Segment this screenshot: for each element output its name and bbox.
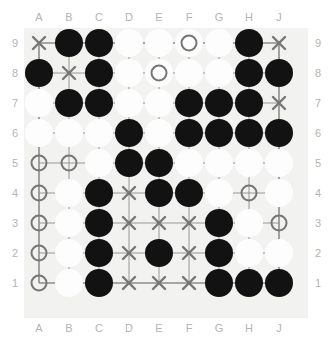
black-stone-f7[interactable] [175, 89, 203, 117]
white-stone-j2[interactable] [265, 239, 293, 267]
intersection-j3[interactable] [264, 208, 294, 238]
black-stone-c7[interactable] [85, 89, 113, 117]
intersection-c1[interactable] [84, 268, 114, 298]
intersection-g5[interactable] [204, 148, 234, 178]
intersection-e7[interactable] [144, 88, 174, 118]
black-stone-h9[interactable] [235, 29, 263, 57]
intersection-f1[interactable] [174, 268, 204, 298]
intersection-g3[interactable] [204, 208, 234, 238]
intersection-f9[interactable] [174, 28, 204, 58]
intersection-a6[interactable] [24, 118, 54, 148]
black-stone-e4[interactable] [145, 179, 173, 207]
intersection-d5[interactable] [114, 148, 144, 178]
intersection-e9[interactable] [144, 28, 174, 58]
black-stone-e2[interactable] [145, 239, 173, 267]
black-stone-c4[interactable] [85, 179, 113, 207]
intersection-a4[interactable] [24, 178, 54, 208]
white-stone-d8[interactable] [115, 59, 143, 87]
white-stone-g5[interactable] [205, 149, 233, 177]
intersection-d6[interactable] [114, 118, 144, 148]
black-stone-b9[interactable] [55, 29, 83, 57]
intersection-h3[interactable] [234, 208, 264, 238]
white-stone-h2[interactable] [235, 239, 263, 267]
intersection-g9[interactable] [204, 28, 234, 58]
black-stone-h8[interactable] [235, 59, 263, 87]
intersection-h4[interactable] [234, 178, 264, 208]
white-stone-a7[interactable] [25, 89, 53, 117]
white-stone-c6[interactable] [85, 119, 113, 147]
black-stone-d5[interactable] [115, 149, 143, 177]
intersection-c2[interactable] [84, 238, 114, 268]
white-stone-e7[interactable] [145, 89, 173, 117]
white-stone-h5[interactable] [235, 149, 263, 177]
intersection-g1[interactable] [204, 268, 234, 298]
white-stone-b6[interactable] [55, 119, 83, 147]
white-stone-j5[interactable] [265, 149, 293, 177]
intersection-j7[interactable] [264, 88, 294, 118]
black-stone-c1[interactable] [85, 269, 113, 297]
intersection-h7[interactable] [234, 88, 264, 118]
intersection-f3[interactable] [174, 208, 204, 238]
white-stone-j4[interactable] [265, 179, 293, 207]
intersection-g8[interactable] [204, 58, 234, 88]
intersection-j6[interactable] [264, 118, 294, 148]
intersection-f4[interactable] [174, 178, 204, 208]
intersection-j8[interactable] [264, 58, 294, 88]
intersection-g4[interactable] [204, 178, 234, 208]
intersection-a9[interactable] [24, 28, 54, 58]
black-stone-c9[interactable] [85, 29, 113, 57]
black-stone-j6[interactable] [265, 119, 293, 147]
intersection-a1[interactable] [24, 268, 54, 298]
intersection-a7[interactable] [24, 88, 54, 118]
white-stone-g9[interactable] [205, 29, 233, 57]
intersection-j1[interactable] [264, 268, 294, 298]
white-stone-f8[interactable] [175, 59, 203, 87]
white-stone-f5[interactable] [175, 149, 203, 177]
white-stone-d9[interactable] [115, 29, 143, 57]
intersection-a8[interactable] [24, 58, 54, 88]
white-stone-d7[interactable] [115, 89, 143, 117]
intersection-e4[interactable] [144, 178, 174, 208]
intersection-b3[interactable] [54, 208, 84, 238]
intersection-h6[interactable] [234, 118, 264, 148]
intersection-f8[interactable] [174, 58, 204, 88]
white-stone-b3[interactable] [55, 209, 83, 237]
intersection-e8[interactable] [144, 58, 174, 88]
intersection-f7[interactable] [174, 88, 204, 118]
intersection-a2[interactable] [24, 238, 54, 268]
black-stone-j1[interactable] [265, 269, 293, 297]
intersection-h9[interactable] [234, 28, 264, 58]
intersection-c3[interactable] [84, 208, 114, 238]
black-stone-e5[interactable] [145, 149, 173, 177]
black-stone-f6[interactable] [175, 119, 203, 147]
white-stone-b2[interactable] [55, 239, 83, 267]
black-stone-c2[interactable] [85, 239, 113, 267]
black-stone-d6[interactable] [115, 119, 143, 147]
black-stone-h7[interactable] [235, 89, 263, 117]
intersection-e1[interactable] [144, 268, 174, 298]
black-stone-g6[interactable] [205, 119, 233, 147]
intersection-j4[interactable] [264, 178, 294, 208]
black-stone-g2[interactable] [205, 239, 233, 267]
black-stone-c8[interactable] [85, 59, 113, 87]
white-stone-h3[interactable] [235, 209, 263, 237]
intersection-b5[interactable] [54, 148, 84, 178]
intersection-g6[interactable] [204, 118, 234, 148]
white-stone-e9[interactable] [145, 29, 173, 57]
intersection-h1[interactable] [234, 268, 264, 298]
black-stone-h6[interactable] [235, 119, 263, 147]
black-stone-g3[interactable] [205, 209, 233, 237]
white-stone-g4[interactable] [205, 179, 233, 207]
intersection-j9[interactable] [264, 28, 294, 58]
intersection-g7[interactable] [204, 88, 234, 118]
intersection-h8[interactable] [234, 58, 264, 88]
black-stone-c3[interactable] [85, 209, 113, 237]
intersection-a5[interactable] [24, 148, 54, 178]
intersection-e5[interactable] [144, 148, 174, 178]
intersection-b1[interactable] [54, 268, 84, 298]
black-stone-b7[interactable] [55, 89, 83, 117]
intersection-b6[interactable] [54, 118, 84, 148]
intersection-d4[interactable] [114, 178, 144, 208]
intersection-h5[interactable] [234, 148, 264, 178]
white-stone-e6[interactable] [145, 119, 173, 147]
